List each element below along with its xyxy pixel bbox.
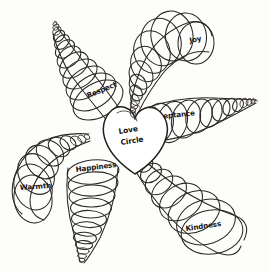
branch-label-warmth: Warmth	[20, 181, 52, 192]
drawing-canvas: Respect Joy	[0, 0, 270, 272]
branch-label-kindness: Kindness	[185, 219, 222, 233]
love-circle-sketch: Respect Joy	[0, 0, 270, 272]
happiness-spiral-coils	[66, 157, 120, 263]
branch-label-joy: Joy	[188, 34, 203, 46]
branch-label-respect: Respect	[85, 79, 118, 99]
branch-happiness: Happiness	[66, 157, 120, 263]
